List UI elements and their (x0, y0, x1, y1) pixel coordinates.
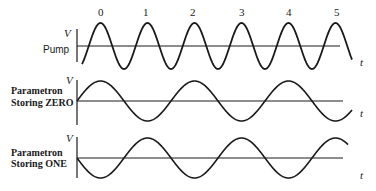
one-label-line1: Parametron (11, 147, 62, 158)
zero-t-label: t (360, 108, 363, 119)
zero-label-line2: Storing ZERO (11, 97, 74, 108)
pump-panel (77, 23, 352, 69)
zero-v-label: V (66, 75, 73, 86)
pump-t-label: t (360, 57, 363, 68)
pump-peak-label-4: 4 (286, 7, 292, 18)
pump-peak-label-5: 5 (334, 7, 340, 18)
pump-label: Pump (43, 44, 69, 55)
pump-v-label: V (64, 28, 71, 39)
zero-panel (77, 80, 352, 125)
pump-peak-label-1: 1 (143, 7, 149, 18)
one-label-line2: Storing ONE (11, 158, 67, 169)
one-t-label: t (360, 170, 363, 181)
zero-label-line1: Parametron (11, 85, 62, 96)
pump-peak-label-3: 3 (239, 7, 245, 18)
pump-peak-label-0: 0 (98, 7, 104, 18)
one-v-label: V (66, 133, 73, 144)
one-panel (77, 137, 348, 178)
pump-peak-label-2: 2 (190, 7, 196, 18)
